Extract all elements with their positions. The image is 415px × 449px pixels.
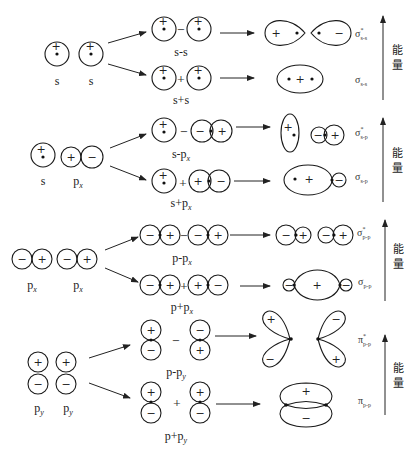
combination-s-minus-s: + − + (152, 15, 211, 42)
svg-text:+: + (195, 386, 204, 399)
mo-diagram: + + s s + − + s-s + + + s+s (0, 0, 415, 449)
combo-label: s+s (173, 93, 189, 107)
svg-text:−: − (193, 229, 202, 242)
svg-text:+: + (266, 313, 275, 326)
svg-text:+: + (217, 125, 226, 138)
svg-text:+: + (213, 229, 222, 242)
svg-text:+: + (193, 175, 202, 188)
mo-sigma-star-p-p: − + − + (276, 225, 353, 245)
svg-text:+: + (301, 385, 310, 398)
svg-text:+: + (193, 15, 202, 28)
svg-text:−: − (284, 279, 293, 292)
svg-text:−: − (61, 378, 70, 391)
svg-text:+: + (338, 229, 347, 242)
combo-label: s-s (174, 45, 188, 59)
svg-text:π*p-p: π*p-p (358, 333, 371, 347)
svg-text:σ*s-p: σ*s-p (355, 126, 368, 140)
svg-text:−: − (180, 126, 188, 137)
atomic-orbital-py-1: + − (28, 352, 48, 394)
svg-text:+: + (180, 280, 188, 291)
mo-pi-star-p-p: + − − + (263, 311, 346, 367)
svg-text:−: − (334, 174, 343, 187)
combination-py-minus-py: + − − − + (141, 320, 210, 360)
svg-text:s+px: s+px (171, 196, 192, 212)
svg-text:+: + (173, 397, 181, 408)
svg-text:+: + (66, 151, 75, 164)
svg-text:πp-p: πp-p (358, 395, 371, 408)
svg-text:−: − (145, 229, 154, 242)
svg-text:−: − (33, 378, 42, 391)
svg-text:+: + (298, 229, 307, 242)
combination-s-minus-px: + − − + (152, 118, 232, 143)
atomic-orbital-s-1: + (45, 40, 69, 67)
svg-text:px: px (73, 174, 83, 190)
svg-text:σs-p: σs-p (355, 171, 368, 184)
svg-text:−: − (301, 412, 310, 425)
group-px-px: − + − + px px − + − − + p-px − (12, 220, 404, 316)
group-s-px: + + − s px + − − + s-px + + (31, 114, 403, 212)
svg-text:px: px (73, 278, 83, 294)
svg-text:px: px (27, 278, 37, 294)
arrow-icon (108, 32, 146, 43)
svg-text:能: 能 (392, 43, 403, 57)
svg-text:能: 能 (392, 146, 403, 160)
svg-text:−: − (195, 407, 204, 420)
svg-text:py: py (63, 401, 73, 417)
svg-text:−: − (180, 230, 188, 241)
svg-text:−: − (341, 279, 350, 292)
atomic-label-s-1: s (55, 74, 60, 88)
atomic-orbital-s-2: + (79, 40, 103, 67)
combination-py-plus-py: + − + + − (141, 382, 210, 423)
svg-text:+: + (165, 279, 174, 292)
svg-text:−: − (334, 27, 343, 40)
svg-text:s-px: s-px (172, 147, 191, 163)
svg-text:+: + (37, 253, 46, 266)
svg-text:−: − (281, 229, 290, 242)
atomic-orbital-py-2: + − (56, 352, 76, 394)
svg-text:+: + (179, 177, 187, 188)
svg-text:量: 量 (392, 59, 403, 72)
svg-text:−: − (195, 324, 204, 337)
svg-text:+: + (331, 353, 340, 366)
svg-text:−: − (313, 129, 322, 142)
svg-text:σ*p-p: σ*p-p (357, 226, 370, 240)
svg-text:−: − (17, 253, 26, 266)
svg-text:−: − (145, 279, 154, 292)
atomic-label-s-2: s (89, 74, 94, 88)
svg-text:+: + (85, 40, 94, 53)
group-py-py: + − + − py py + − − − + p-py + (28, 311, 404, 445)
svg-text:−: − (146, 407, 155, 420)
atomic-orbital-s: + (31, 143, 55, 168)
group-s-s: + + s s + − + s-s + + + s+s (45, 15, 403, 108)
mo-sigma-s-s: + (277, 65, 323, 93)
svg-text:能: 能 (393, 361, 404, 375)
svg-text:+: + (146, 386, 155, 399)
svg-text:−: − (177, 24, 185, 35)
svg-text:py: py (34, 401, 44, 417)
svg-text:−: − (213, 279, 222, 292)
svg-text:量: 量 (393, 258, 404, 271)
svg-text:+: + (146, 324, 155, 337)
svg-text:+: + (295, 73, 304, 86)
svg-text:+: + (33, 356, 42, 369)
svg-text:量: 量 (393, 377, 404, 390)
mo-label: σ*s-s (355, 27, 368, 41)
svg-text:+: + (312, 279, 321, 292)
svg-text:+: + (177, 73, 185, 84)
svg-text:p+py: p+py (165, 429, 188, 445)
combination-px-plus-px: − + + + − (140, 275, 228, 295)
svg-text:−: − (87, 151, 96, 164)
svg-text:p+px: p+px (171, 300, 194, 316)
svg-text:+: + (36, 143, 45, 156)
mo-sigma-s-p: + − (284, 165, 346, 195)
svg-text:+: + (283, 121, 292, 134)
svg-text:+: + (195, 344, 204, 357)
svg-text:−: − (62, 253, 71, 266)
mo-sigma-star-s-p: + − + (281, 114, 344, 152)
svg-text:+: + (330, 129, 339, 142)
svg-text:s: s (41, 174, 46, 188)
svg-text:+: + (158, 169, 167, 182)
svg-text:−: − (172, 335, 180, 346)
svg-text:p-py: p-py (166, 365, 186, 381)
svg-text:−: − (195, 125, 204, 138)
